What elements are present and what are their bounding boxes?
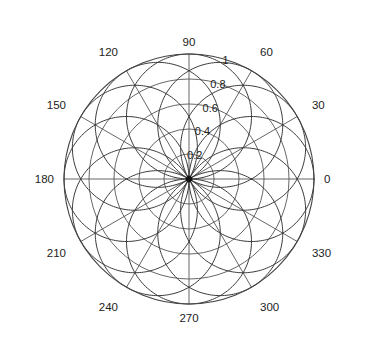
- angle-tick-label-0: 0: [324, 173, 330, 185]
- radial-tick-label-1: 1: [223, 54, 229, 66]
- origin-marker: [186, 176, 192, 182]
- radial-tick-label-0-4: 0.4: [195, 125, 210, 137]
- angle-tick-label-150: 150: [47, 99, 66, 111]
- angle-tick-label-90: 90: [183, 36, 196, 48]
- angle-tick-label-30: 30: [312, 99, 325, 111]
- radial-tick-label-0-2: 0.2: [187, 149, 202, 161]
- radial-tick-labels: 0.20.40.60.81: [187, 54, 229, 161]
- angle-tick-label-270: 270: [179, 312, 198, 324]
- radial-tick-label-0-8: 0.8: [210, 78, 225, 90]
- angle-tick-label-180: 180: [35, 173, 54, 185]
- angle-tick-label-240: 240: [99, 301, 118, 313]
- angle-tick-label-120: 120: [99, 46, 118, 58]
- angle-tick-label-210: 210: [47, 247, 66, 259]
- polar-chart: 0306090120150180210240270300330 0.20.40.…: [0, 0, 373, 358]
- polar-plot-canvas: 0306090120150180210240270300330 0.20.40.…: [0, 0, 373, 358]
- angle-tick-label-60: 60: [260, 46, 273, 58]
- angle-tick-label-330: 330: [312, 247, 331, 259]
- angle-tick-label-300: 300: [260, 301, 279, 313]
- radial-tick-label-0-6: 0.6: [203, 102, 218, 114]
